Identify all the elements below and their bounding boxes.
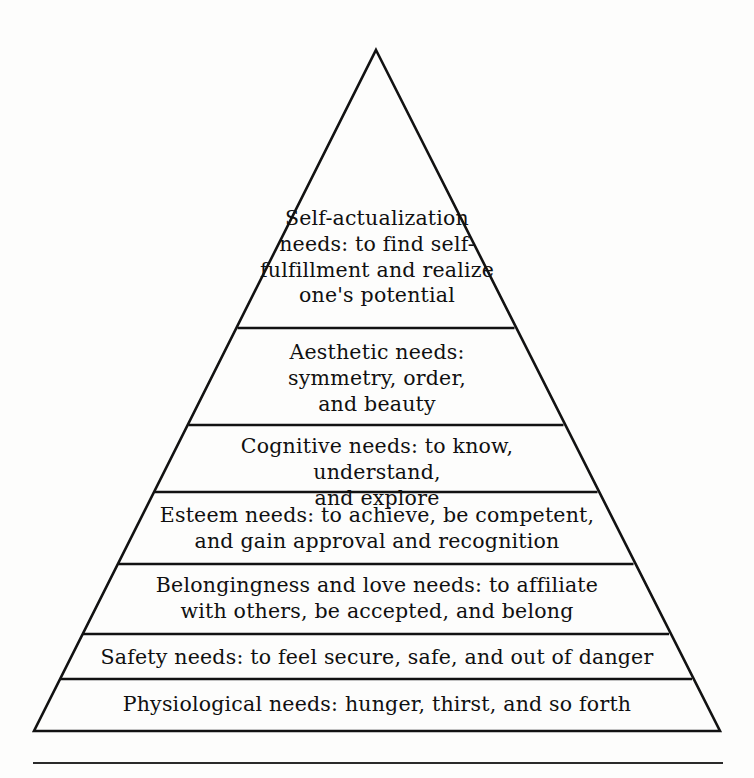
tier-label-aesthetic: Aesthetic needs: symmetry, order, and be… xyxy=(228,340,526,417)
tier-label-cognitive: Cognitive needs: to know, understand, an… xyxy=(176,434,578,511)
tier-label-self-actualization: Self-actualization needs: to find self- … xyxy=(233,206,521,309)
tier-label-belongingness-and-love: Belongingness and love needs: to affilia… xyxy=(122,573,632,625)
tier-label-safety: Safety needs: to feel secure, safe, and … xyxy=(88,645,666,671)
figure-page: Self-actualization needs: to find self- … xyxy=(0,0,754,778)
tier-label-physiological: Physiological needs: hunger, thirst, and… xyxy=(58,692,696,718)
tier-label-esteem: Esteem needs: to achieve, be competent, … xyxy=(150,503,604,555)
